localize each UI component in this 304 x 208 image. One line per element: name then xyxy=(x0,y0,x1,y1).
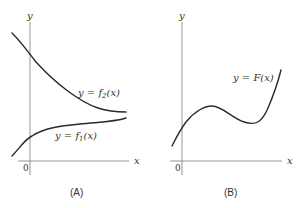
panel-a-curve-f2 xyxy=(12,33,126,112)
panel-a-y-label: y xyxy=(26,10,33,21)
panel-a-origin-label: 0 xyxy=(23,163,29,173)
panel-b: y x 0 y = F(x) (B) xyxy=(170,10,293,198)
panel-a-caption: (A) xyxy=(70,187,83,198)
panel-a-x-label: x xyxy=(134,155,140,166)
figure: y x 0 y = f2(x) y = f1(x) (A) y x 0 y = … xyxy=(0,0,304,208)
panel-b-F-label: y = F(x) xyxy=(232,72,274,83)
panel-b-y-label: y xyxy=(178,10,185,21)
panel-a-f1-label: y = f1(x) xyxy=(54,130,97,143)
panel-a: y x 0 y = f2(x) y = f1(x) (A) xyxy=(12,10,140,198)
panel-b-caption: (B) xyxy=(224,187,237,198)
panel-b-origin-label: 0 xyxy=(175,163,181,173)
panel-a-f2-label: y = f2(x) xyxy=(77,87,120,100)
panel-b-x-label: x xyxy=(287,155,293,166)
